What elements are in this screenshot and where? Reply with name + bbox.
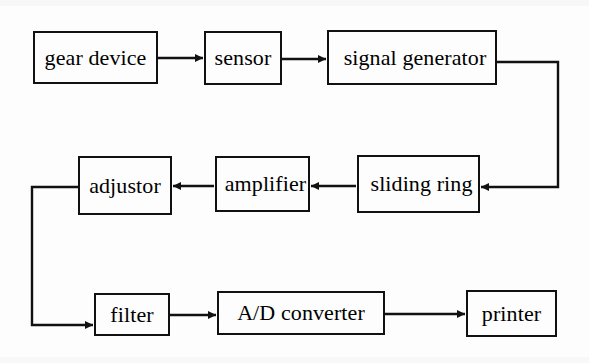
block-label-filter: filter (110, 304, 153, 326)
block-label-sensor: sensor (215, 47, 272, 69)
block-label-ad-converter: A/D converter (237, 302, 365, 324)
block-printer: printer (466, 290, 557, 337)
block-label-signal-generator: signal generator (344, 47, 487, 69)
block-ad-converter: A/D converter (217, 291, 385, 335)
block-label-adjustor: adjustor (89, 175, 161, 197)
block-label-printer: printer (482, 303, 541, 325)
block-amplifier: amplifier (215, 156, 310, 212)
block-sliding-ring: sliding ring (357, 155, 480, 213)
block-filter: filter (94, 293, 170, 336)
block-label-sliding-ring: sliding ring (370, 173, 472, 195)
block-adjustor: adjustor (78, 156, 172, 215)
block-gear-device: gear device (33, 31, 158, 84)
block-diagram: gear device sensor signal generator adju… (0, 0, 589, 363)
block-label-amplifier: amplifier (225, 173, 307, 195)
block-sensor: sensor (204, 31, 282, 85)
block-signal-generator: signal generator (327, 30, 497, 85)
block-label-gear-device: gear device (45, 47, 147, 69)
